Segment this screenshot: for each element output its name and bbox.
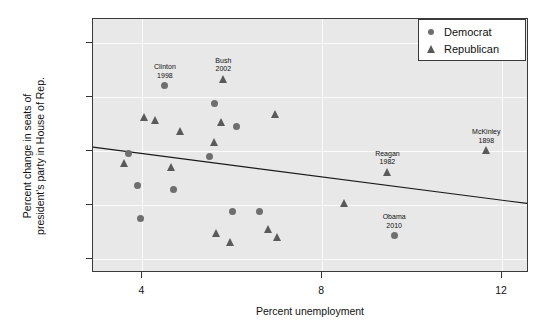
triangle-marker-icon: [273, 233, 281, 241]
triangle-marker-icon: [226, 238, 234, 246]
gridline-horizontal: [93, 259, 527, 260]
legend-label-republican: Republican: [444, 43, 499, 55]
triangle-marker-icon: [271, 110, 279, 118]
triangle-marker-icon: [151, 116, 159, 124]
circle-marker-icon: [391, 232, 398, 239]
x-tick-label: 4: [121, 284, 161, 296]
triangle-marker-icon: [482, 146, 490, 154]
triangle-marker-icon: [210, 138, 218, 146]
triangle-marker-icon: [383, 168, 391, 176]
circle-marker-icon: [137, 215, 144, 222]
y-axis-label: Percent change in seats of president's p…: [21, 26, 47, 286]
gridline-vertical: [322, 19, 323, 271]
triangle-marker-icon: [340, 199, 348, 207]
circle-marker-icon: [134, 182, 141, 189]
gridline-horizontal: [93, 205, 527, 206]
circle-marker-icon: [170, 186, 177, 193]
x-tick-mark: [321, 272, 322, 278]
x-tick-label: 8: [301, 284, 341, 296]
triangle-marker-icon: [264, 225, 272, 233]
circle-marker-icon: [229, 208, 236, 215]
point-annotation: McKinley 1898: [456, 128, 516, 145]
point-annotation: Reagan 1982: [357, 150, 417, 167]
point-annotation: Clinton 1998: [135, 63, 195, 80]
triangle-marker-icon: [217, 118, 225, 126]
x-tick-label: 12: [481, 284, 521, 296]
scatter-chart-figure: Percent change in seats of president's p…: [0, 0, 549, 330]
triangle-marker-icon: [425, 43, 441, 55]
x-tick-mark: [501, 272, 502, 278]
circle-marker-icon: [233, 123, 240, 130]
triangle-marker-icon: [167, 163, 175, 171]
circle-marker-icon: [256, 208, 263, 215]
triangle-marker-icon: [140, 113, 148, 121]
circle-marker-icon: [206, 153, 213, 160]
gridline-vertical: [142, 19, 143, 271]
x-axis-label: Percent unemployment: [92, 305, 528, 317]
triangle-marker-icon: [120, 159, 128, 167]
gridline-horizontal: [93, 151, 527, 152]
legend: Democrat Republican: [418, 19, 526, 61]
circle-marker-icon: [211, 100, 218, 107]
circle-marker-icon: [161, 82, 168, 89]
gridline-horizontal: [93, 97, 527, 98]
point-annotation: Bush 2002: [193, 57, 253, 74]
point-annotation: Obama 2010: [364, 213, 424, 230]
triangle-marker-icon: [212, 229, 220, 237]
triangle-marker-icon: [219, 75, 227, 83]
triangle-marker-icon: [176, 127, 184, 135]
circle-marker-icon: [425, 26, 441, 38]
legend-item-republican[interactable]: Republican: [425, 40, 499, 57]
circle-marker-icon: [125, 150, 132, 157]
legend-item-democrat[interactable]: Democrat: [425, 23, 492, 40]
x-tick-mark: [141, 272, 142, 278]
legend-label-democrat: Democrat: [444, 26, 492, 38]
